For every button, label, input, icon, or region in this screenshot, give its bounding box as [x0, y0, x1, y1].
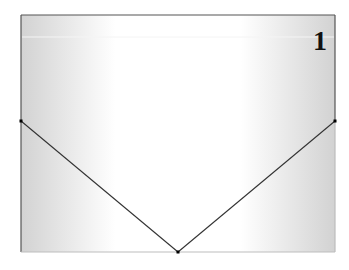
vertex-bottom-center: [177, 251, 180, 254]
vertex-right-mid: [334, 120, 337, 123]
panel-label: 1: [313, 25, 327, 56]
diagram-canvas: 1: [0, 0, 349, 270]
panel-fill: [21, 15, 335, 252]
vertex-left-mid: [20, 120, 23, 123]
